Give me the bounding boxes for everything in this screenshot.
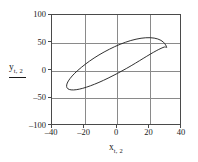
x-axis-subscript: t, 2 [114,147,123,154]
ytick-label-0: 0 [42,65,46,74]
xtick-label-minus20: –20 [77,128,90,137]
xtick-label-40: 40 [177,128,186,137]
xtick-label-20: 20 [144,128,153,137]
ytick-mark-4 [48,124,51,125]
figure-container: –40 –20 0 20 40 100 50 0 –50 –100 xt, 2 … [0,0,198,162]
x-axis-title: xt, 2 [109,142,123,156]
xtick-label-0: 0 [114,128,118,137]
y-axis-subscript: t, 2 [14,67,23,74]
y-axis-vector-underbar [9,77,26,78]
ellipse-curve [52,15,182,126]
ytick-label-100: 100 [33,10,46,19]
ytick-mark-3 [48,97,51,98]
ytick-mark-0 [48,14,51,15]
ytick-label-minus50: –50 [33,93,46,102]
ytick-label-50: 50 [38,37,47,46]
ellipse-path [67,38,167,90]
y-axis-title-inner: yt, 2 [9,62,23,72]
ytick-mark-2 [48,69,51,70]
xtick-label-minus40: –40 [45,128,58,137]
ytick-label-minus100: –100 [29,121,46,130]
ytick-mark-1 [48,41,51,42]
y-axis-title: yt, 2 [9,62,26,78]
plot-area [51,14,181,125]
